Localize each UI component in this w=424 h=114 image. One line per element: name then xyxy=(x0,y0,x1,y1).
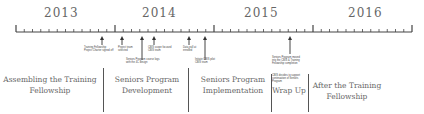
phase-divider xyxy=(308,74,309,112)
milestone-note: Project team selected xyxy=(118,46,140,52)
milestone-note: CBIS decides to support continuation of … xyxy=(272,74,304,83)
milestone-note: Data pull at enrolled xyxy=(183,46,203,52)
arrow-up-icon xyxy=(120,36,124,40)
milestone-note: Seniors Program moved into the CBIS & Tr… xyxy=(272,56,304,65)
phase-label: Assembling the Training Fellowship xyxy=(0,74,100,96)
milestone-note: Training Fellowship Project Charter sign… xyxy=(84,46,114,52)
milestone-note: Seniors Program course logs with the 4C … xyxy=(126,58,160,64)
arrow-up-icon xyxy=(140,36,144,40)
arrow-up-icon xyxy=(152,36,156,40)
arrow-up-icon xyxy=(203,36,207,40)
phase-label: Seniors Program Development xyxy=(110,74,184,96)
phase-label: Wrap Up xyxy=(272,86,306,96)
arrow-up-icon xyxy=(187,36,191,40)
milestone-note: Initiate CBIS pilot CBIS team xyxy=(195,58,217,64)
arrow-up-icon xyxy=(288,36,292,40)
arrow-up-icon xyxy=(100,36,104,40)
milestone-note: CBIS scope focused CBIS team xyxy=(148,46,172,52)
phase-label: After the Training Fellowship xyxy=(312,80,382,102)
phase-label: Seniors Program Implementation xyxy=(196,74,270,96)
phase-divider xyxy=(103,68,104,112)
phase-divider xyxy=(188,68,189,112)
phase-divider xyxy=(271,74,272,112)
